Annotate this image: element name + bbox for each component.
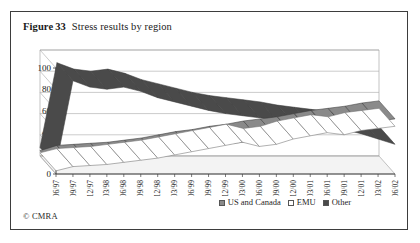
copyright-credit: © CMRA	[23, 211, 58, 221]
chart-x-tick-label: 03/02	[374, 180, 383, 196]
chart-x-tick-label: 09/99	[204, 180, 213, 196]
chart-x-tick-label: 12/98	[153, 180, 162, 196]
legend-entry-us-and-canada: US and Canada	[219, 198, 281, 207]
figure-caption-title: Stress results by region	[72, 21, 172, 32]
chart-x-tick-labels: 06/9709/9712/9703/9806/9809/9812/9803/99…	[52, 174, 400, 196]
legend-label-emu: EMU	[297, 198, 316, 207]
legend-label-other: Other	[332, 198, 351, 207]
chart-x-tick-label: 09/00	[272, 180, 281, 196]
figure-caption: Figure33Stress results by region	[23, 20, 172, 33]
legend-swatch-other	[323, 200, 329, 206]
chart-x-tick-label: 06/02	[391, 180, 400, 196]
chart-x-tick-label: 06/00	[255, 180, 264, 196]
chart-y-tick-label: 100	[38, 63, 52, 73]
chart-x-tick-label: 06/97	[52, 180, 61, 196]
figure-container: Figure33Stress results by region 0204060…	[10, 11, 408, 230]
chart-plot-area: 020406080100 06/9709/9712/9703/9806/9809…	[11, 38, 407, 196]
chart-y-tick-label: 0	[47, 169, 52, 179]
chart-x-tick-label: 06/01	[323, 180, 332, 196]
chart-x-tick-label: 09/98	[136, 180, 145, 196]
chart-legend: US and Canada EMU Other	[219, 198, 351, 207]
chart-x-tick-label: 12/00	[289, 180, 298, 196]
legend-entry-other: Other	[323, 198, 351, 207]
figure-caption-label: Figure	[23, 21, 53, 32]
chart-x-tick-label: 03/98	[102, 180, 111, 196]
chart-x-tick-label: 06/98	[119, 180, 128, 196]
chart-y-tick-label: 80	[42, 84, 52, 94]
chart-x-tick-label: 03/01	[306, 180, 315, 196]
chart-x-tick-label: 12/99	[221, 180, 230, 196]
legend-swatch-us-and-canada	[219, 200, 225, 206]
stress-results-line-chart: 020406080100 06/9709/9712/9703/9806/9809…	[11, 38, 407, 196]
chart-x-tick-label: 12/97	[86, 180, 95, 196]
chart-x-tick-label: 03/00	[238, 180, 247, 196]
chart-x-tick-label: 06/99	[187, 180, 196, 196]
chart-x-tick-label: 03/99	[170, 180, 179, 196]
chart-x-tick-label: 09/01	[340, 180, 349, 196]
legend-label-us-and-canada: US and Canada	[228, 198, 281, 207]
legend-swatch-emu	[288, 200, 294, 206]
chart-x-tick-label: 09/97	[69, 180, 78, 196]
figure-caption-number: 33	[55, 21, 66, 32]
legend-entry-emu: EMU	[288, 198, 316, 207]
chart-x-tick-label: 12/01	[357, 180, 366, 196]
